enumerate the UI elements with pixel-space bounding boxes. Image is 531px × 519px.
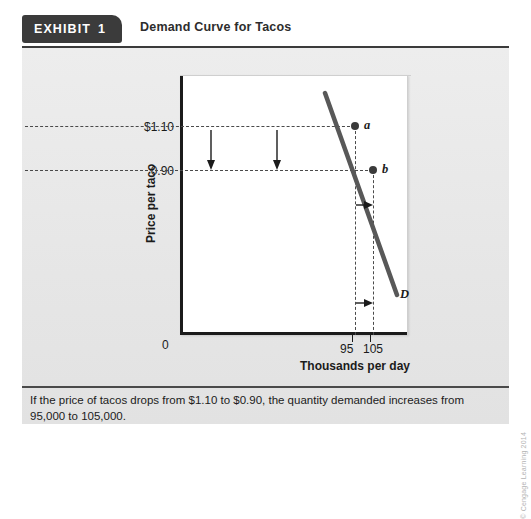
- exhibit-caption: If the price of tacos drops from $1.10 t…: [30, 392, 495, 424]
- demand-curve-label: D: [400, 287, 409, 302]
- x-axis-title: Thousands per day: [300, 359, 410, 373]
- exhibit-header: EXHIBIT 1 Demand Curve for Tacos: [22, 15, 509, 45]
- x-tick-label-95: 95: [340, 342, 353, 356]
- x-tick-mark-105: [370, 335, 371, 342]
- quantity-increase-arrow-2: [356, 299, 373, 307]
- data-point-b: [369, 166, 377, 174]
- plot-inner: a b D: [183, 75, 408, 332]
- exhibit-title: Demand Curve for Tacos: [140, 20, 291, 34]
- exhibit-badge: EXHIBIT 1: [22, 15, 122, 43]
- exhibit-panel: Price per taco $1.10 0.90 0: [22, 48, 509, 424]
- exhibit-badge-number: 1: [98, 22, 106, 36]
- data-point-b-label: b: [382, 162, 388, 177]
- plot-area: a b D: [180, 75, 408, 335]
- x-tick-label-105: 105: [363, 342, 383, 356]
- quantity-increase-arrow-1: [356, 201, 373, 209]
- data-point-a: [351, 122, 359, 130]
- x-tick-mark-95: [352, 335, 353, 342]
- copyright-credit: © Cengage Learning 2014: [520, 432, 527, 519]
- origin-label: 0: [162, 338, 169, 352]
- price-drop-arrow-2: [273, 130, 281, 170]
- y-tick-label-low: 0.90: [100, 164, 174, 178]
- y-tick-label-high: $1.10: [100, 120, 174, 134]
- caption-divider: [22, 386, 509, 388]
- price-drop-arrow-1: [207, 130, 215, 170]
- data-point-a-label: a: [364, 118, 370, 133]
- demand-curve-line: [325, 93, 397, 295]
- exhibit-badge-label: EXHIBIT: [34, 22, 91, 36]
- demand-curve-svg: [183, 75, 411, 335]
